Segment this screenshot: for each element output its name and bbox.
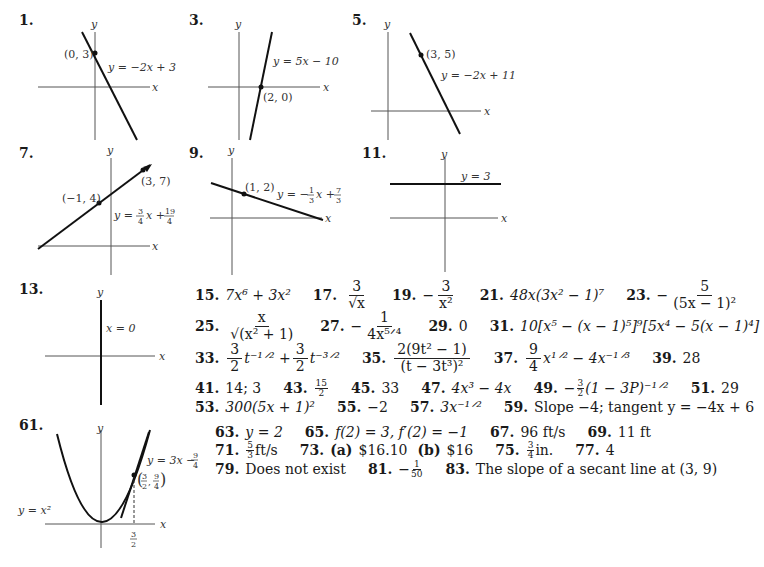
svg-text:,: ,	[148, 477, 151, 487]
answer-67: 67.96 ft/s	[490, 424, 565, 440]
svg-text:y = 3x −: y = 3x −	[146, 454, 195, 467]
graph-61-curve-label: y = x²	[17, 504, 51, 517]
svg-text:2: 2	[142, 482, 147, 491]
svg-text:9: 9	[154, 472, 159, 481]
answer-77: 77.4	[575, 442, 614, 458]
answer-65: 65.f(2) = 3, f′(2) = −1	[305, 424, 468, 440]
graph-61-x-label: x	[160, 518, 167, 531]
answer-row-7: 71.53ft/s 73.(a)$16.10(b)$16 75.34in. 77…	[215, 441, 637, 459]
answer-75: 75.34in.	[495, 441, 553, 460]
svg-text:): )	[160, 470, 166, 489]
graph-61-point-label: ( 3 2 , 9 4 )	[137, 470, 166, 491]
answer-79: 79.Does not exist	[215, 461, 346, 477]
svg-text:4: 4	[193, 461, 198, 470]
answer-69: 69.11 ft	[587, 424, 650, 440]
answer-71: 71.53ft/s	[215, 441, 278, 460]
graph-61-y-label: y	[96, 422, 104, 435]
svg-text:2: 2	[131, 540, 136, 549]
graph-61-tangent-equation: y = 3x − 9 4	[146, 451, 198, 470]
answer-63: 63.y = 2	[215, 424, 283, 440]
graph-61-x-tick-label: 3 2	[130, 530, 137, 549]
answer-81: 81.−150	[368, 460, 424, 479]
answer-row-6: 63.y = 2 65.f(2) = 3, f′(2) = −1 67.96 f…	[215, 423, 673, 441]
graph-61-point	[132, 473, 137, 478]
svg-text:3: 3	[131, 530, 136, 539]
answer-73: 73.(a)$16.10(b)$16	[300, 442, 473, 458]
answer-51: 51.29	[691, 380, 739, 396]
answer-row-8: 79.Does not exist 81.−150 83.The slope o…	[215, 460, 739, 478]
svg-text:3: 3	[142, 472, 147, 481]
svg-text:9: 9	[193, 451, 198, 460]
svg-text:4: 4	[154, 482, 159, 491]
answer-83: 83.The slope of a secant line at (3, 9)	[445, 461, 717, 477]
